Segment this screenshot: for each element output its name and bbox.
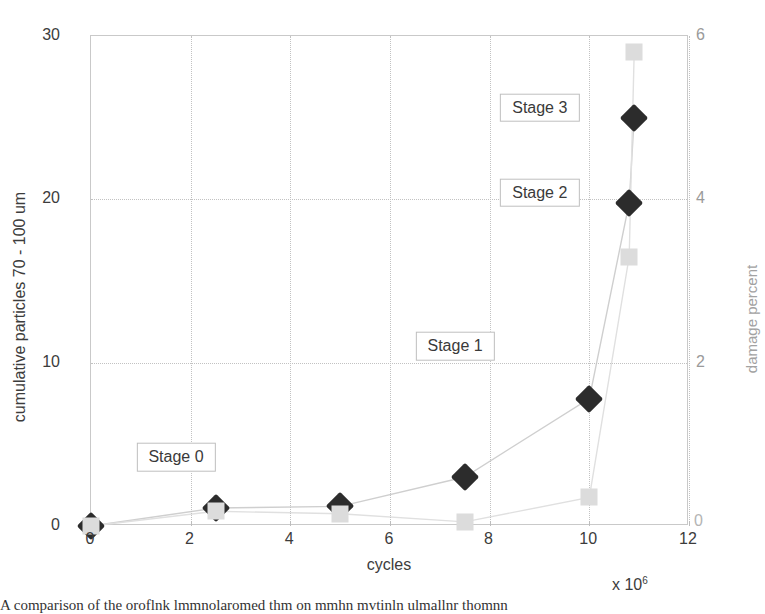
x-axis-tick-label: 2 bbox=[185, 530, 194, 548]
y-axis-left-tick-label: 30 bbox=[0, 26, 60, 44]
gridline-vertical bbox=[589, 36, 590, 524]
data-point-damage bbox=[621, 248, 638, 265]
data-point-particles bbox=[620, 104, 648, 132]
stage-annotation-label: Stage 1 bbox=[415, 332, 494, 361]
gridline-horizontal bbox=[91, 199, 687, 200]
data-point-damage bbox=[207, 503, 224, 520]
data-point-particles bbox=[451, 463, 479, 491]
x-axis-tick-mark bbox=[689, 521, 690, 526]
data-point-particles bbox=[615, 188, 643, 216]
data-point-damage bbox=[332, 505, 349, 522]
data-point-damage bbox=[456, 513, 473, 530]
y-axis-right-tick-label: 6 bbox=[696, 26, 736, 44]
x-axis-tick-mark bbox=[290, 521, 291, 526]
x-axis-tick-mark bbox=[589, 521, 590, 526]
x-axis-multiplier-base: x 10 bbox=[612, 576, 642, 593]
stage-annotation-label: Stage 2 bbox=[500, 179, 579, 208]
y-axis-label-right: damage percent bbox=[743, 209, 760, 429]
x-axis-tick-label: 6 bbox=[384, 530, 393, 548]
gridline-vertical bbox=[290, 36, 291, 524]
x-axis-tick-mark bbox=[191, 521, 192, 526]
y-axis-right-tick-label: 2 bbox=[696, 353, 736, 371]
stage-annotation-label: Stage 3 bbox=[500, 94, 579, 123]
y-axis-left-tick-label: 20 bbox=[0, 189, 60, 207]
gridline-vertical bbox=[490, 36, 491, 524]
chart-figure: Stage 0Stage 1Stage 2Stage 3 cumulative … bbox=[0, 0, 765, 614]
x-axis-tick-mark bbox=[490, 521, 491, 526]
x-axis-tick-label: 0 bbox=[85, 530, 94, 548]
gridline-vertical bbox=[689, 36, 690, 524]
x-axis-multiplier: x 106 bbox=[612, 575, 648, 594]
x-axis-label: cycles bbox=[90, 556, 688, 574]
x-axis-multiplier-exponent: 6 bbox=[642, 575, 648, 586]
y-axis-right-tick-zero: 0 bbox=[694, 512, 703, 530]
x-axis-tick-label: 12 bbox=[679, 530, 697, 548]
y-axis-right-tick-label: 4 bbox=[696, 189, 736, 207]
data-point-damage bbox=[581, 489, 598, 506]
stage-annotation-label: Stage 0 bbox=[136, 443, 215, 472]
x-axis-tick-label: 4 bbox=[285, 530, 294, 548]
plot-area: Stage 0Stage 1Stage 2Stage 3 bbox=[90, 35, 688, 525]
gridline-horizontal bbox=[91, 363, 687, 364]
data-point-damage bbox=[626, 44, 643, 61]
gridline-vertical bbox=[390, 36, 391, 524]
data-point-particles bbox=[575, 384, 603, 412]
x-axis-tick-mark bbox=[390, 521, 391, 526]
y-axis-left-tick-label: 10 bbox=[0, 353, 60, 371]
x-axis-tick-label: 10 bbox=[579, 530, 597, 548]
figure-caption: A comparison of the oroflnk lmmnolaromed… bbox=[0, 597, 765, 614]
y-axis-left-tick-label: 0 bbox=[0, 516, 60, 534]
x-axis-tick-label: 8 bbox=[484, 530, 493, 548]
